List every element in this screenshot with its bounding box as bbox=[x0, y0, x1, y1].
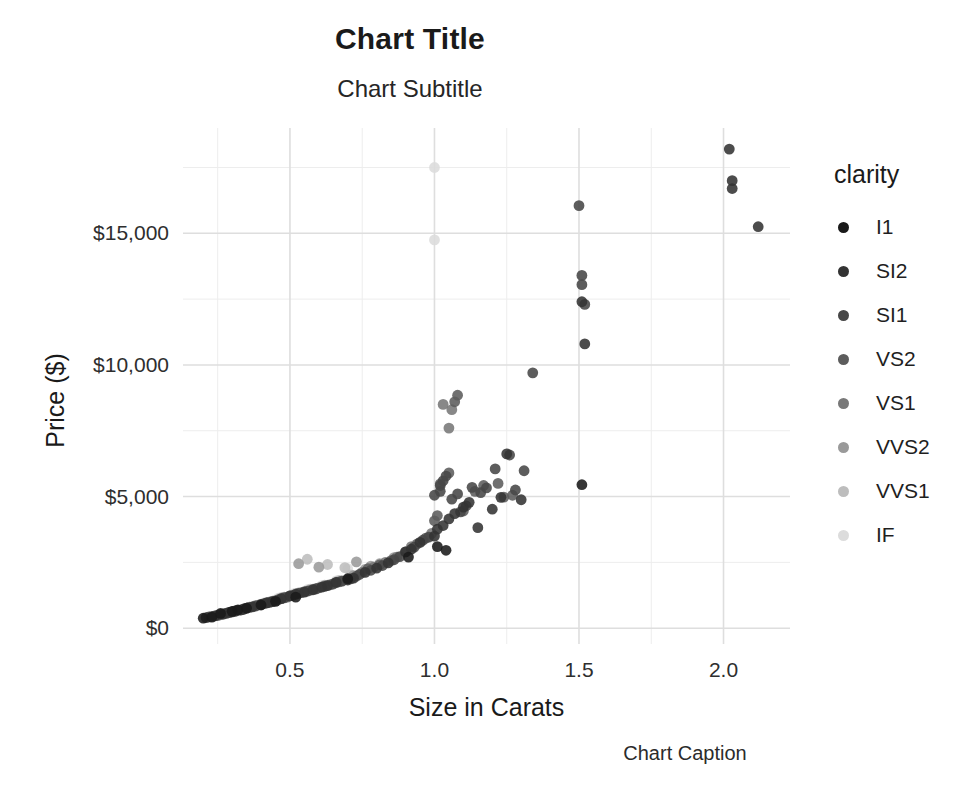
legend-item-vs1[interactable]: VS1 bbox=[826, 381, 976, 425]
x-tick-label: 0.5 bbox=[275, 658, 304, 682]
legend-item-label: VS2 bbox=[876, 347, 916, 371]
legend-item-i1[interactable]: I1 bbox=[826, 205, 976, 249]
legend-item-si2[interactable]: SI2 bbox=[826, 249, 976, 293]
chart-caption: Chart Caption bbox=[520, 742, 850, 765]
y-axis-title: Price ($) bbox=[41, 291, 70, 511]
legend-swatch-icon bbox=[826, 442, 860, 453]
y-tick-label: $10,000 bbox=[0, 353, 169, 377]
x-tick-label: 2.0 bbox=[709, 658, 738, 682]
legend-swatch-icon bbox=[826, 266, 860, 277]
legend-swatch-icon bbox=[826, 530, 860, 541]
legend-item-label: VS1 bbox=[876, 391, 916, 415]
legend-item-label: IF bbox=[876, 523, 895, 547]
legend: clarity I1SI2SI1VS2VS1VVS2VVS1IF bbox=[826, 160, 976, 557]
legend-item-label: SI2 bbox=[876, 259, 908, 283]
legend-item-label: SI1 bbox=[876, 303, 908, 327]
y-tick-label: $0 bbox=[0, 616, 169, 640]
legend-swatch-icon bbox=[826, 310, 860, 321]
legend-title: clarity bbox=[834, 160, 976, 189]
legend-item-vvs2[interactable]: VVS2 bbox=[826, 425, 976, 469]
legend-item-si1[interactable]: SI1 bbox=[826, 293, 976, 337]
legend-swatch-icon bbox=[826, 398, 860, 409]
plot-panel bbox=[183, 128, 790, 644]
chart-subtitle: Chart Subtitle bbox=[0, 75, 820, 103]
legend-item-label: I1 bbox=[876, 215, 894, 239]
legend-item-label: VVS1 bbox=[876, 479, 930, 503]
legend-items: I1SI2SI1VS2VS1VVS2VVS1IF bbox=[826, 205, 976, 557]
legend-item-vvs1[interactable]: VVS1 bbox=[826, 469, 976, 513]
x-tick-label: 1.0 bbox=[420, 658, 449, 682]
y-tick-label: $15,000 bbox=[0, 221, 169, 245]
y-tick-label: $5,000 bbox=[0, 485, 169, 509]
scatter-chart: Chart Title Chart Subtitle $0$5,000$10,0… bbox=[0, 0, 980, 808]
chart-title: Chart Title bbox=[0, 22, 820, 56]
data-points bbox=[183, 128, 790, 644]
x-axis-title: Size in Carats bbox=[183, 693, 790, 722]
legend-item-label: VVS2 bbox=[876, 435, 930, 459]
legend-swatch-icon bbox=[826, 354, 860, 365]
legend-swatch-icon bbox=[826, 222, 860, 233]
legend-swatch-icon bbox=[826, 486, 860, 497]
legend-item-vs2[interactable]: VS2 bbox=[826, 337, 976, 381]
x-tick-label: 1.5 bbox=[564, 658, 593, 682]
legend-item-if[interactable]: IF bbox=[826, 513, 976, 557]
